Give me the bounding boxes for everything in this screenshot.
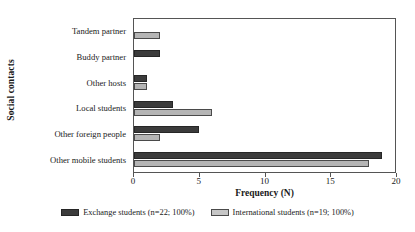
legend-entry[interactable]: Exchange students (n=22; 100%) <box>61 208 194 217</box>
x-axis-tick-label: 10 <box>260 176 269 186</box>
x-axis-tick-label: 20 <box>392 176 401 186</box>
bar <box>134 75 147 82</box>
x-axis-title: Frequency (N) <box>133 188 396 198</box>
x-axis-tick-label: 5 <box>197 176 202 186</box>
bar <box>134 32 160 39</box>
bar <box>134 134 160 141</box>
bar <box>134 152 382 159</box>
x-axis-tick-label: 0 <box>131 176 136 186</box>
x-axis-tick-label: 15 <box>326 176 335 186</box>
bar-group <box>134 19 395 45</box>
y-axis-category-label: Other foreign people <box>20 121 130 147</box>
legend-swatch-icon <box>61 209 79 216</box>
bar-group <box>134 45 395 71</box>
bar-group <box>134 70 395 96</box>
bars-layer <box>134 19 395 172</box>
bar <box>134 83 147 90</box>
y-axis-title: Social contacts <box>2 0 20 180</box>
y-axis-category-label: Other mobile students <box>20 147 130 173</box>
y-axis-category-label: Tandem partner <box>20 18 130 44</box>
y-axis-category-label: Other hosts <box>20 70 130 96</box>
bar-chart-figure: Social contacts Tandem partnerBuddy part… <box>0 0 415 232</box>
bar <box>134 126 199 133</box>
legend-swatch-icon <box>211 209 229 216</box>
y-axis-category-label: Buddy partner <box>20 44 130 70</box>
y-axis-title-text: Social contacts <box>6 59 16 120</box>
bar-group <box>134 121 395 147</box>
bar <box>134 109 212 116</box>
bar <box>134 101 173 108</box>
bar <box>134 160 369 167</box>
bar-group <box>134 96 395 122</box>
bar-group <box>134 147 395 173</box>
legend-entry[interactable]: International students (n=19; 100%) <box>211 208 354 217</box>
y-axis-category-label: Local students <box>20 95 130 121</box>
legend-label: Exchange students (n=22; 100%) <box>83 208 194 217</box>
legend-label: International students (n=19; 100%) <box>233 208 354 217</box>
chart-legend: Exchange students (n=22; 100%)Internatio… <box>0 208 415 217</box>
y-axis-category-labels: Tandem partnerBuddy partnerOther hostsLo… <box>20 18 130 173</box>
bar <box>134 50 160 57</box>
x-axis-tick-labels: 05101520 <box>133 176 396 188</box>
plot-area <box>133 18 396 173</box>
